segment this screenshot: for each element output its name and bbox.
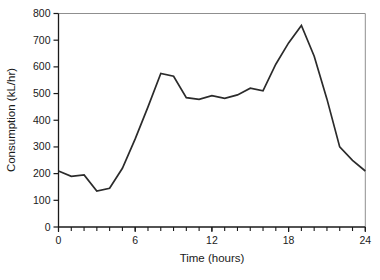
x-tick-label: 24 (359, 234, 371, 246)
y-tick-label: 200 (33, 167, 51, 179)
x-axis-title: Time (hours) (180, 252, 245, 264)
y-axis-title: Consumption (kL/hr) (5, 68, 17, 172)
y-tick-label: 100 (33, 194, 51, 206)
x-tick-label: 12 (206, 234, 218, 246)
consumption-line (59, 26, 366, 192)
chart-figure: 010020030040050060070080006121824 Time (… (0, 0, 380, 280)
y-tick-label: 800 (33, 7, 51, 19)
x-tick-label: 0 (56, 234, 62, 246)
y-tick-label: 600 (33, 60, 51, 72)
y-tick-label: 400 (33, 114, 51, 126)
consumption-chart: 010020030040050060070080006121824 Time (… (0, 0, 380, 280)
y-tick-label: 700 (33, 34, 51, 46)
x-tick-label: 18 (283, 234, 295, 246)
y-tick-label: 300 (33, 140, 51, 152)
x-tick-label: 6 (132, 234, 138, 246)
y-tick-label: 0 (45, 221, 51, 233)
y-tick-label: 500 (33, 87, 51, 99)
plot-area: 010020030040050060070080006121824 (33, 7, 371, 246)
